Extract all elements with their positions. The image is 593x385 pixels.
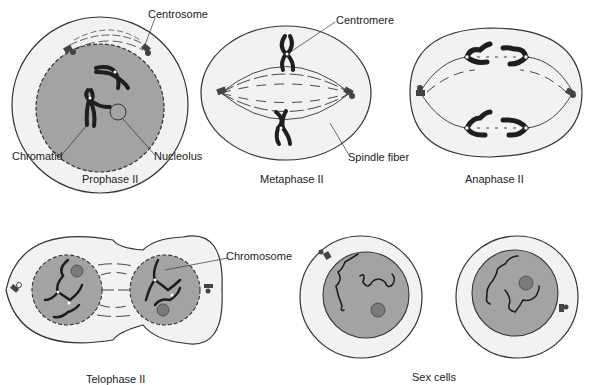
label-centromere: Centromere	[336, 14, 394, 26]
nucleolus-icon	[71, 265, 83, 277]
label-centrosome: Centrosome	[148, 8, 208, 20]
anaphase-ii-cell	[410, 28, 582, 157]
telophase-ii-cell	[6, 236, 228, 344]
caption-prophase-ii: Prophase II	[82, 173, 138, 185]
nucleolus-icon	[110, 104, 126, 120]
caption-sex-cells: Sex cells	[412, 371, 456, 383]
caption-telophase-ii: Telophase II	[86, 373, 145, 385]
sex-cell-2	[456, 236, 578, 358]
label-chromatid: Chromatid	[12, 150, 63, 162]
nucleolus-icon	[371, 303, 385, 317]
nucleolus-icon	[157, 304, 169, 316]
label-chromosome: Chromosome	[226, 250, 292, 262]
metaphase-ii-cell	[201, 22, 371, 160]
label-nucleolus: Nucleolus	[154, 150, 202, 162]
sex-cell-1	[300, 236, 422, 358]
label-spindle-fiber: Spindle fiber	[348, 151, 409, 163]
caption-metaphase-ii: Metaphase II	[260, 173, 324, 185]
nucleolus-icon	[519, 276, 533, 290]
caption-anaphase-ii: Anaphase II	[465, 173, 524, 185]
prophase-ii-cell	[12, 17, 188, 193]
